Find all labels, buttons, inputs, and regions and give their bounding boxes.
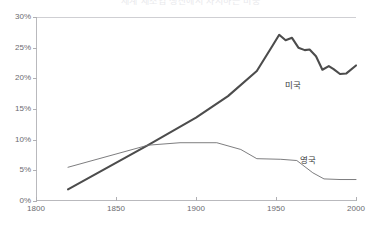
x-tick-label: 1850 [107,205,125,213]
x-tick-label: 1800 [27,205,45,213]
y-tick [33,201,37,202]
series-label-uk: 영국 [300,156,316,165]
series-label-us: 미국 [285,81,301,90]
chart-container: 세계 제조업 생산에서 차지하는 비중 0%5%10%15%20%25%30% … [0,0,381,232]
series-line-us [68,35,356,190]
y-tick-label: 15% [15,105,31,113]
x-tick [356,197,357,201]
x-tick-label: 1900 [187,205,205,213]
chart-title: 세계 제조업 생산에서 차지하는 비중 [0,0,381,6]
y-tick-label: 20% [15,74,31,82]
x-tick-label: 1950 [267,205,285,213]
y-tick-label: 30% [15,13,31,21]
x-tick-label: 2000 [347,205,365,213]
series-lines [36,17,356,201]
y-tick-label: 5% [19,166,31,174]
y-tick-label: 10% [15,136,31,144]
y-tick-label: 25% [15,44,31,52]
plot-area: 0%5%10%15%20%25%30% 18001850190019502000 [36,17,356,201]
